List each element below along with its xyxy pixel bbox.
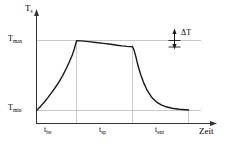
y-axis-label: Ts <box>25 4 33 13</box>
temperature-curve <box>37 41 189 111</box>
y-tick-label-tmin: Tmin <box>8 104 21 112</box>
thermal-cycle-chart: Ts Tmax Tmin Zeit ΔT tbe tsp tent <box>0 0 229 145</box>
y-axis-label-main: T <box>25 3 31 13</box>
segment-3-sub: ent <box>157 129 164 135</box>
segment-label-cooling: tent <box>155 126 164 134</box>
delta-t-arrowhead-up <box>172 29 176 35</box>
y-tick-tmax-sub: max <box>13 38 22 44</box>
chart-canvas <box>0 0 229 145</box>
x-axis-label: Zeit <box>199 127 214 136</box>
delta-t-label: ΔT <box>181 29 191 37</box>
y-tick-tmin-sub: min <box>13 107 22 113</box>
y-axis-arrowhead <box>34 9 39 16</box>
segment-label-holding: tsp <box>99 126 106 134</box>
segment-2-sub: sp <box>101 129 106 135</box>
y-tick-label-tmax: Tmax <box>8 35 22 43</box>
segment-label-heating: tbe <box>44 126 51 134</box>
y-axis-label-sub: s <box>31 8 33 14</box>
segment-1-sub: be <box>46 129 51 135</box>
